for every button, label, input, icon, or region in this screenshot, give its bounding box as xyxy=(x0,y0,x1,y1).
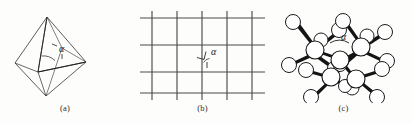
square-grid-drawing xyxy=(130,0,275,103)
octahedron-back-vertex-edges xyxy=(46,17,86,96)
octahedron-drawing xyxy=(0,0,130,103)
panel-square-grid: (b) xyxy=(130,0,275,123)
octahedron-outer-edges xyxy=(15,17,86,96)
caption-a: (a) xyxy=(0,103,130,114)
panel-ball-and-stick: (c) xyxy=(275,0,412,123)
figure-root: (a) (b) xyxy=(0,0,412,123)
octahedron-front-vertex-edges xyxy=(15,17,86,96)
molecular-model-drawing xyxy=(275,0,412,103)
angle-label-alpha-b: α xyxy=(211,46,216,57)
grid-vertical-lines xyxy=(152,11,252,100)
caption-b: (b) xyxy=(130,103,275,114)
angle-label-alpha-c: α xyxy=(341,31,346,42)
panel-octahedron: (a) xyxy=(0,0,130,123)
caption-c: (c) xyxy=(275,103,412,114)
angle-label-alpha-a: α xyxy=(59,43,64,54)
molecule-core-spheres xyxy=(306,38,370,88)
grid-angle-marker xyxy=(197,52,210,69)
